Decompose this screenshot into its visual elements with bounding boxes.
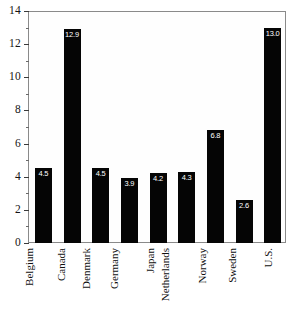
x-axis-label-text: Sweden: [227, 248, 238, 283]
y-axis-tick-label: 14: [9, 5, 21, 17]
y-axis-tick-label: 2: [15, 204, 21, 216]
bar-value-label: 4.2: [150, 175, 167, 183]
bar-denmark: 4.5: [92, 11, 109, 243]
bar-germany: 3.9: [121, 11, 138, 243]
x-axis-label-netherlands: Netherlands: [178, 248, 195, 312]
bar-rect: 2.6: [236, 200, 253, 243]
bar-rect: 3.9: [121, 178, 138, 243]
bar-rect: 4.3: [178, 172, 195, 243]
x-axis-label-text: U.S.: [263, 248, 274, 268]
x-axis-label-text: Germany: [109, 248, 120, 289]
x-axis-label-u-s: U.S.: [264, 248, 281, 312]
x-axis-label-text: Japan: [145, 248, 156, 273]
bar-value-label: 4.5: [35, 170, 52, 178]
bar-sweden: 2.6: [236, 11, 253, 243]
bar-rect: 12.9: [64, 29, 81, 243]
bar-chart: 02468101214 4.512.94.53.94.24.36.82.613.…: [0, 0, 294, 313]
bar-value-label: 13.0: [264, 30, 281, 38]
y-axis-tick-label: 0: [15, 237, 21, 249]
y-axis-tick-label: 8: [15, 105, 21, 117]
y-axis-tick-label: 10: [9, 72, 21, 84]
bar-value-label: 6.8: [207, 132, 224, 140]
bar-rect: 6.8: [207, 130, 224, 243]
bar-rect: 4.5: [35, 168, 52, 243]
y-axis-tick-label: 6: [15, 138, 21, 150]
bar-rect: 4.2: [150, 173, 167, 243]
bar-rect: 13.0: [264, 28, 281, 243]
bar-canada: 12.9: [64, 11, 81, 243]
bar-rect: 4.5: [92, 168, 109, 243]
x-axis-label-text: Norway: [198, 248, 209, 283]
bar-value-label: 4.5: [92, 170, 109, 178]
x-axis-labels: BelgiumCanadaDenmarkGermanyJapanNetherla…: [28, 248, 286, 313]
x-axis-label-text: Denmark: [80, 248, 91, 289]
y-axis-tick: [24, 243, 29, 244]
x-axis-label-text: Netherlands: [160, 248, 171, 301]
bar-value-label: 12.9: [64, 31, 81, 39]
bar-value-label: 2.6: [236, 202, 253, 210]
x-axis-label-text: Belgium: [24, 248, 35, 286]
x-axis-label-germany: Germany: [121, 248, 138, 312]
x-axis-label-belgium: Belgium: [35, 248, 52, 312]
bars-layer: 4.512.94.53.94.24.36.82.613.0: [28, 11, 286, 243]
bar-netherlands: 4.3: [178, 11, 195, 243]
bar-value-label: 3.9: [121, 180, 138, 188]
x-axis-label-norway: Norway: [207, 248, 224, 312]
y-axis-tick-label: 12: [9, 38, 21, 50]
x-axis-label-sweden: Sweden: [236, 248, 253, 312]
bar-japan: 4.2: [150, 11, 167, 243]
x-axis-label-canada: Canada: [64, 248, 81, 312]
bar-value-label: 4.3: [178, 174, 195, 182]
bar-belgium: 4.5: [35, 11, 52, 243]
x-axis-label-text: Canada: [56, 248, 67, 281]
bar-norway: 6.8: [207, 11, 224, 243]
y-axis-tick-label: 4: [15, 171, 21, 183]
bar-u-s: 13.0: [264, 11, 281, 243]
